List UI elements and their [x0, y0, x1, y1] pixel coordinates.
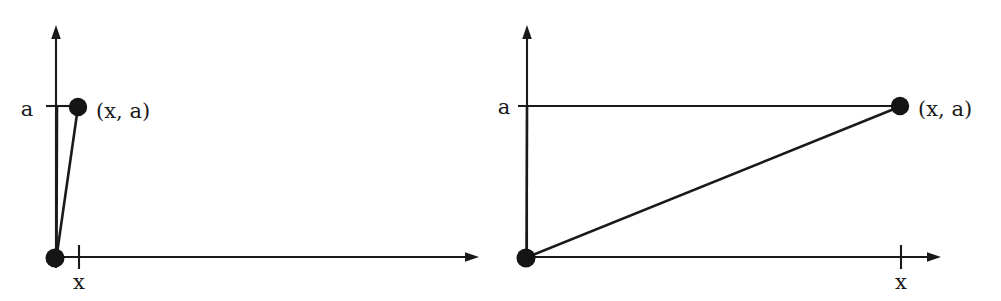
right-y-axis-arrowhead: [522, 25, 532, 39]
left-y-axis-label-a: a: [21, 97, 34, 121]
left-hypotenuse: [57, 107, 79, 257]
left-vertical-leg: [57, 107, 58, 257]
right-point-dot: [891, 97, 909, 115]
right-panel: a x (x, a): [498, 25, 972, 294]
left-origin-dot: [46, 249, 65, 268]
right-vertical-leg: [527, 107, 528, 257]
right-hypotenuse: [527, 107, 900, 258]
right-y-axis-label-a: a: [498, 95, 511, 119]
right-point-coordinate-label: (x, a): [918, 97, 972, 121]
right-origin-dot: [517, 249, 536, 268]
right-x-axis-arrowhead: [927, 252, 941, 262]
left-x-axis-label-x: x: [73, 270, 85, 294]
left-point-coordinate-label: (x, a): [96, 99, 150, 123]
left-y-axis-arrowhead: [51, 25, 61, 39]
left-point-dot: [69, 98, 87, 116]
left-x-axis-arrowhead: [465, 252, 479, 262]
right-x-axis-label-x: x: [895, 270, 907, 294]
left-panel: a x (x, a): [21, 25, 479, 294]
figure-canvas: a x (x, a) a x (x, a): [0, 0, 1001, 301]
two-panel-geometry-figure: a x (x, a) a x (x, a): [0, 0, 1001, 301]
